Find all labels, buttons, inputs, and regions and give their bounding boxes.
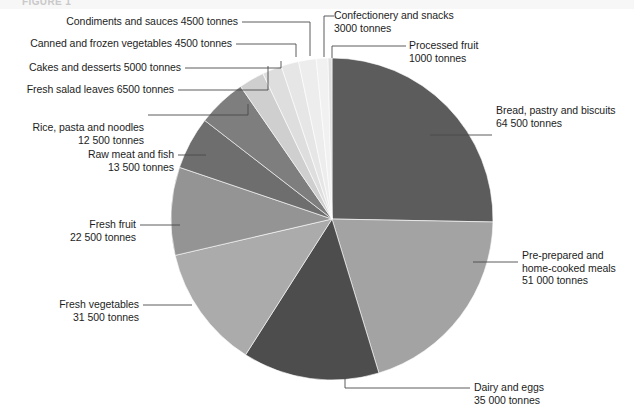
callout-rice: Rice, pasta and noodles 12 500 tonnes [32,121,144,146]
leader-confectionery [324,16,334,57]
leader-condiments [242,22,310,56]
callout-meals: Pre-prepared and home-cooked meals 51 00… [522,249,616,287]
callout-canned: Canned and frozen vegetables 4500 tonnes [30,37,232,50]
chart-canvas: FIGURE 1 [0,0,634,415]
callout-dairy: Dairy and eggs 35 000 tonnes [474,381,544,406]
callout-condiments: Condiments and sauces 4500 tonnes [66,15,238,28]
leader-cakes [185,61,281,68]
leader-processed-fruit [332,46,406,58]
callout-salad: Fresh salad leaves 6500 tonnes [27,83,174,96]
pie-slice[interactable] [332,58,493,222]
leader-dairy [345,378,470,388]
callout-raw-meat: Raw meat and fish 13 500 tonnes [88,148,174,173]
leader-canned [236,44,296,57]
callout-fresh-vegetables: Fresh vegetables 31 500 tonnes [59,298,139,323]
callout-processed-fruit: Processed fruit 1000 tonnes [409,39,478,64]
callout-fresh-fruit: Fresh fruit 22 500 tonnes [70,218,136,243]
callout-bread: Bread, pastry and biscuits 64 500 tonnes [496,104,616,129]
callout-confectionery: Confectionery and snacks 3000 tonnes [334,9,454,34]
callout-cakes: Cakes and desserts 5000 tonnes [29,61,181,74]
pie-slices [171,58,493,380]
